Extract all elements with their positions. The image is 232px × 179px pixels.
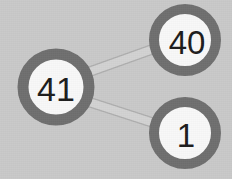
edge-41-40[interactable] — [86, 48, 156, 73]
edge-41-1[interactable] — [86, 101, 157, 124]
node-41[interactable]: 41 — [23, 54, 89, 120]
edge-41-1-fill — [86, 101, 157, 124]
node-1-label: 1 — [177, 117, 195, 154]
node-1[interactable]: 1 — [154, 102, 216, 164]
graph-diagram-canvas: 41 40 1 — [0, 0, 232, 179]
node-40[interactable]: 40 — [154, 9, 216, 71]
node-layer: 41 40 1 — [23, 9, 216, 164]
edge-41-40-fill — [86, 48, 156, 73]
node-41-label: 41 — [37, 70, 75, 108]
edge-layer — [86, 48, 157, 124]
graph-svg: 41 40 1 — [0, 0, 232, 179]
node-40-label: 40 — [169, 24, 206, 61]
